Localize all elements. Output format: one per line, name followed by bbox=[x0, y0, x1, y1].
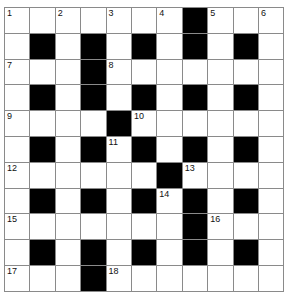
crossword-cell[interactable] bbox=[259, 163, 283, 188]
crossword-cell[interactable] bbox=[234, 163, 258, 188]
crossword-cell[interactable] bbox=[30, 8, 54, 33]
crossword-cell[interactable] bbox=[157, 266, 181, 291]
crossword-cell[interactable] bbox=[208, 85, 232, 110]
crossword-cell[interactable] bbox=[107, 34, 131, 59]
crossword-cell[interactable] bbox=[234, 266, 258, 291]
crossword-cell[interactable] bbox=[183, 266, 207, 291]
crossword-cell[interactable] bbox=[259, 240, 283, 265]
crossword-cell[interactable] bbox=[56, 214, 80, 239]
crossword-cell[interactable] bbox=[81, 8, 105, 33]
crossword-cell[interactable]: 9 bbox=[5, 111, 29, 136]
crossword-cell[interactable] bbox=[30, 111, 54, 136]
crossword-cell[interactable] bbox=[208, 163, 232, 188]
crossword-cell[interactable] bbox=[5, 34, 29, 59]
crossword-cell[interactable] bbox=[234, 60, 258, 85]
crossword-cell[interactable] bbox=[30, 60, 54, 85]
crossword-cell[interactable] bbox=[56, 85, 80, 110]
clue-number: 5 bbox=[210, 9, 215, 18]
crossword-cell[interactable]: 10 bbox=[132, 111, 156, 136]
crossword-cell[interactable] bbox=[132, 214, 156, 239]
crossword-cell[interactable] bbox=[56, 137, 80, 162]
crossword-cell[interactable] bbox=[208, 266, 232, 291]
crossword-cell[interactable]: 4 bbox=[157, 8, 181, 33]
crossword-cell[interactable] bbox=[5, 240, 29, 265]
crossword-cell[interactable] bbox=[157, 214, 181, 239]
crossword-cell[interactable] bbox=[107, 214, 131, 239]
crossword-cell[interactable] bbox=[132, 8, 156, 33]
crossword-cell[interactable] bbox=[157, 111, 181, 136]
crossword-cell[interactable] bbox=[259, 85, 283, 110]
crossword-cell[interactable] bbox=[30, 266, 54, 291]
crossword-cell[interactable] bbox=[56, 189, 80, 214]
crossword-cell[interactable] bbox=[259, 266, 283, 291]
crossword-cell[interactable] bbox=[234, 111, 258, 136]
crossword-cell[interactable]: 16 bbox=[208, 214, 232, 239]
crossword-cell[interactable] bbox=[107, 240, 131, 265]
crossword-cell[interactable]: 12 bbox=[5, 163, 29, 188]
crossword-cell[interactable] bbox=[208, 137, 232, 162]
crossword-cell[interactable] bbox=[132, 60, 156, 85]
crossword-cell[interactable] bbox=[234, 8, 258, 33]
black-square bbox=[132, 34, 156, 59]
crossword-cell[interactable] bbox=[234, 214, 258, 239]
clue-number: 12 bbox=[7, 164, 17, 173]
crossword-cell[interactable] bbox=[157, 34, 181, 59]
crossword-cell[interactable] bbox=[208, 60, 232, 85]
crossword-cell[interactable] bbox=[183, 111, 207, 136]
crossword-cell[interactable] bbox=[157, 60, 181, 85]
crossword-cell[interactable] bbox=[208, 34, 232, 59]
crossword-cell[interactable] bbox=[132, 163, 156, 188]
crossword-cell[interactable] bbox=[259, 34, 283, 59]
crossword-cell[interactable]: 17 bbox=[5, 266, 29, 291]
black-square bbox=[183, 240, 207, 265]
crossword-cell[interactable] bbox=[259, 60, 283, 85]
crossword-cell[interactable]: 13 bbox=[183, 163, 207, 188]
crossword-cell[interactable] bbox=[5, 189, 29, 214]
crossword-cell[interactable] bbox=[5, 137, 29, 162]
crossword-cell[interactable] bbox=[259, 137, 283, 162]
crossword-cell[interactable]: 1 bbox=[5, 8, 29, 33]
crossword-cell[interactable] bbox=[56, 60, 80, 85]
crossword-cell[interactable] bbox=[208, 189, 232, 214]
crossword-cell[interactable] bbox=[56, 34, 80, 59]
black-square bbox=[81, 266, 105, 291]
crossword-cell[interactable] bbox=[208, 111, 232, 136]
crossword-cell[interactable] bbox=[107, 85, 131, 110]
crossword-cell[interactable] bbox=[132, 266, 156, 291]
crossword-cell[interactable] bbox=[56, 111, 80, 136]
crossword-cell[interactable]: 3 bbox=[107, 8, 131, 33]
crossword-cell[interactable] bbox=[81, 163, 105, 188]
crossword-cell[interactable]: 18 bbox=[107, 266, 131, 291]
crossword-cell[interactable] bbox=[56, 266, 80, 291]
black-square bbox=[107, 111, 131, 136]
crossword-cell[interactable] bbox=[56, 240, 80, 265]
crossword-cell[interactable] bbox=[107, 163, 131, 188]
crossword-cell[interactable]: 6 bbox=[259, 8, 283, 33]
crossword-cell[interactable] bbox=[259, 214, 283, 239]
crossword-cell[interactable] bbox=[81, 111, 105, 136]
crossword-cell[interactable] bbox=[259, 111, 283, 136]
crossword-cell[interactable] bbox=[107, 189, 131, 214]
crossword-cell[interactable] bbox=[259, 189, 283, 214]
black-square bbox=[183, 189, 207, 214]
crossword-cell[interactable] bbox=[157, 137, 181, 162]
clue-number: 1 bbox=[7, 9, 12, 18]
crossword-cell[interactable] bbox=[157, 85, 181, 110]
crossword-cell[interactable]: 2 bbox=[56, 8, 80, 33]
crossword-cell[interactable]: 8 bbox=[107, 60, 131, 85]
crossword-cell[interactable] bbox=[183, 60, 207, 85]
crossword-cell[interactable]: 15 bbox=[5, 214, 29, 239]
crossword-cell[interactable]: 7 bbox=[5, 60, 29, 85]
crossword-cell[interactable]: 11 bbox=[107, 137, 131, 162]
crossword-cell[interactable] bbox=[30, 214, 54, 239]
black-square bbox=[30, 34, 54, 59]
crossword-cell[interactable]: 5 bbox=[208, 8, 232, 33]
crossword-cell[interactable] bbox=[157, 240, 181, 265]
crossword-cell[interactable] bbox=[5, 85, 29, 110]
crossword-cell[interactable] bbox=[56, 163, 80, 188]
crossword-cell[interactable] bbox=[30, 163, 54, 188]
crossword-cell[interactable] bbox=[81, 214, 105, 239]
crossword-cell[interactable] bbox=[208, 240, 232, 265]
black-square bbox=[81, 240, 105, 265]
crossword-cell[interactable]: 14 bbox=[157, 189, 181, 214]
